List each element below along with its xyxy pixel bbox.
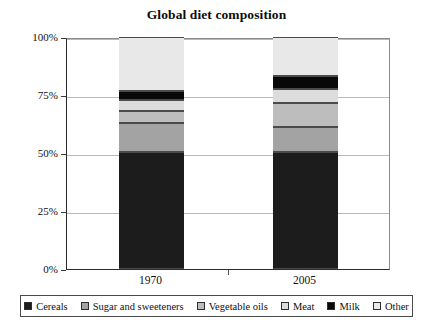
- legend-swatch-icon: [373, 302, 381, 310]
- legend-item[interactable]: Meat: [281, 301, 315, 312]
- bar-segment[interactable]: [273, 89, 338, 103]
- x-axis-tick-label: 2005: [260, 274, 350, 286]
- bar-segment[interactable]: [119, 123, 184, 152]
- y-axis-tick-label: 50%: [6, 148, 58, 159]
- y-axis-tick-label: 25%: [6, 206, 58, 217]
- bar-segment[interactable]: [273, 76, 338, 89]
- legend-label: Vegetable oils: [209, 301, 268, 312]
- gridline: [67, 213, 389, 214]
- legend-label: Meat: [293, 301, 315, 312]
- legend-item[interactable]: Milk: [327, 301, 359, 312]
- gridline: [67, 39, 389, 40]
- bar-segment[interactable]: [273, 103, 338, 127]
- gridline: [67, 155, 389, 156]
- bar-segment[interactable]: [273, 127, 338, 152]
- legend-item[interactable]: Cereals: [24, 301, 68, 312]
- legend-swatch-icon: [281, 302, 289, 310]
- legend-label: Sugar and sweeteners: [93, 301, 184, 312]
- y-axis-tick-label: 0%: [6, 264, 58, 275]
- legend-label: Cereals: [36, 301, 68, 312]
- chart-container: Global diet composition 0%25%50%75%100% …: [0, 0, 433, 332]
- x-axis-tick: [228, 270, 229, 275]
- chart-legend: CerealsSugar and sweetenersVegetable oil…: [20, 295, 413, 317]
- plot-area: [66, 38, 390, 270]
- bar-segment[interactable]: [273, 152, 338, 269]
- bar-segment[interactable]: [119, 37, 184, 91]
- legend-swatch-icon: [327, 302, 335, 310]
- legend-label: Other: [385, 301, 409, 312]
- y-axis-tick-label: 100%: [6, 32, 58, 43]
- bar-segment[interactable]: [119, 100, 184, 111]
- stacked-bar[interactable]: [273, 37, 338, 269]
- bar-segment[interactable]: [119, 152, 184, 269]
- legend-swatch-icon: [24, 302, 32, 310]
- bar-segment[interactable]: [119, 111, 184, 123]
- legend-item[interactable]: Sugar and sweeteners: [81, 301, 184, 312]
- legend-item[interactable]: Vegetable oils: [197, 301, 268, 312]
- y-axis-tick-label: 75%: [6, 90, 58, 101]
- chart-title: Global diet composition: [0, 7, 433, 23]
- gridline: [67, 97, 389, 98]
- x-axis-tick-label: 1970: [106, 274, 196, 286]
- legend-swatch-icon: [197, 302, 205, 310]
- y-axis-tick: [61, 270, 66, 271]
- legend-swatch-icon: [81, 302, 89, 310]
- legend-item[interactable]: Other: [373, 301, 409, 312]
- bar-segment[interactable]: [119, 91, 184, 100]
- bar-segment[interactable]: [273, 37, 338, 76]
- stacked-bar[interactable]: [119, 37, 184, 269]
- legend-label: Milk: [339, 301, 359, 312]
